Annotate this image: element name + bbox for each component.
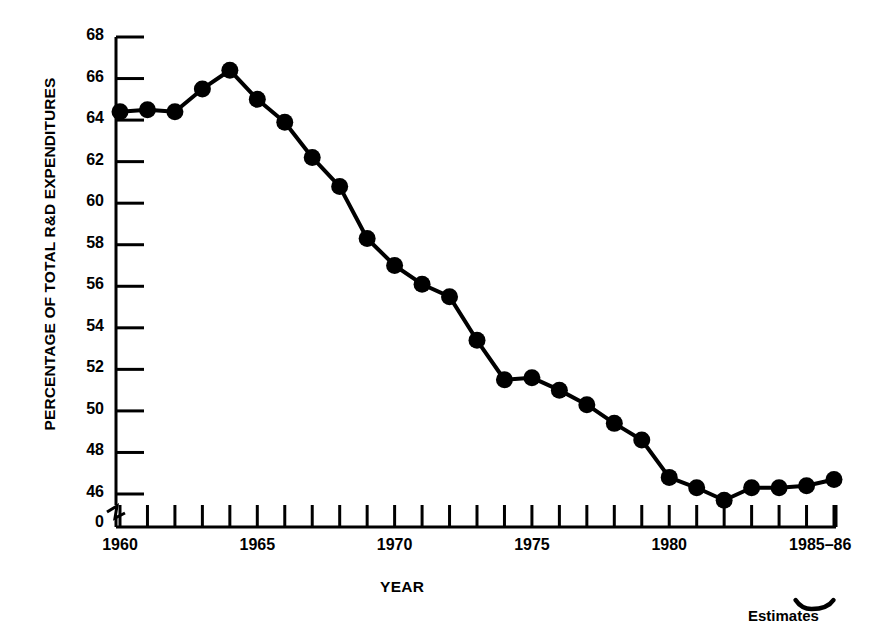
data-point-1968 — [331, 178, 348, 195]
data-point-1983 — [743, 479, 760, 496]
data-point-1979 — [633, 431, 650, 448]
data-point-1976 — [551, 382, 568, 399]
data-point-1962 — [166, 103, 183, 120]
y-tick-label: 52 — [60, 358, 104, 376]
data-point-1965 — [249, 91, 266, 108]
y-tick-label: 48 — [60, 441, 104, 459]
y-tick-label: 46 — [60, 483, 104, 501]
data-point-1977 — [578, 396, 595, 413]
estimates-brace-icon — [796, 600, 834, 609]
x-tick-label: 1980 — [609, 536, 729, 554]
data-point-1960 — [112, 103, 129, 120]
data-point-1967 — [304, 149, 321, 166]
chart-container: PERCENTAGE OF TOTAL R&D EXPENDITURES YEA… — [0, 0, 883, 637]
y-tick-label: 60 — [60, 192, 104, 210]
data-point-1975 — [523, 369, 540, 386]
data-point-1963 — [194, 80, 211, 97]
data-point-1980 — [661, 469, 678, 486]
x-tick-label: 1975 — [472, 536, 592, 554]
data-point-1978 — [606, 415, 623, 432]
y-tick-label: 50 — [60, 400, 104, 418]
x-axis — [116, 505, 836, 527]
data-point-1972 — [441, 288, 458, 305]
y-tick-label: 54 — [60, 317, 104, 335]
data-point-1961 — [139, 101, 156, 118]
y-tick-label-zero: 0 — [60, 513, 104, 531]
data-point-1984 — [771, 479, 788, 496]
data-point-1966 — [276, 114, 293, 131]
data-series-line — [120, 70, 834, 500]
y-tick-label: 62 — [60, 151, 104, 169]
data-point-markers — [112, 62, 843, 509]
data-point-1974 — [496, 371, 513, 388]
data-point-1982 — [716, 492, 733, 509]
x-tick-label: 1985–86 — [760, 536, 880, 554]
data-point-1969 — [359, 230, 376, 247]
data-point-1970 — [386, 257, 403, 274]
x-tick-label: 1965 — [197, 536, 317, 554]
y-tick-label: 56 — [60, 275, 104, 293]
data-point-1964 — [221, 62, 238, 79]
x-tick-label: 1960 — [60, 536, 180, 554]
y-tick-label: 64 — [60, 109, 104, 127]
x-tick-label: 1970 — [335, 536, 455, 554]
y-tick-label: 68 — [60, 26, 104, 44]
data-point-1985 — [798, 477, 815, 494]
data-point-1973 — [469, 332, 486, 349]
y-tick-label: 58 — [60, 234, 104, 252]
data-point-1986 — [826, 471, 843, 488]
y-tick-label: 66 — [60, 68, 104, 86]
data-point-1981 — [688, 479, 705, 496]
data-point-1971 — [414, 276, 431, 293]
